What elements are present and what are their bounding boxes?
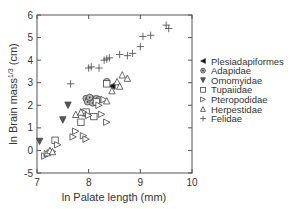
y-tick-label: 6 [27,10,33,21]
x-axis-label: ln Palate length (mm) [62,191,167,203]
plus-icon [200,116,206,122]
y-axis-label: ln Brain mass1/3 (cm) [7,43,19,144]
data-point [119,72,125,78]
data-point [147,32,154,39]
scatter-chart: 78910 6543210-5 PlesiadapiformesAdapidae… [0,0,292,209]
y-tick-label: 1 [27,122,33,133]
square-open-icon [201,87,206,92]
data-point [60,117,66,123]
data-point [95,64,102,71]
legend-label: Felidae [211,113,242,124]
y-tick-label: -5 [24,168,33,179]
right-triangle-open-icon [201,97,206,102]
y-axis-label-main: ln Brain mass [7,78,19,145]
x-tick-label: 9 [138,177,144,188]
data-point [104,119,110,125]
y-tick-label: 0 [27,145,33,156]
y-tick-label: 4 [27,55,33,66]
data-point [65,102,71,108]
data-point [137,43,144,50]
data-point [83,136,89,142]
data-point [91,113,97,119]
left-triangle-filled-icon [201,59,206,64]
x-tick-label: 10 [186,177,198,188]
y-axis-label-sup: 1/3 [7,68,14,78]
legend: PlesiadapiformesAdapidaeOmomyidaeTupaiid… [200,56,284,125]
y-axis-label-unit: (cm) [7,43,19,68]
x-tick-label: 8 [86,177,92,188]
down-triangle-filled-icon [201,78,206,83]
legend-item: Felidae [200,113,242,124]
data-point [70,134,76,140]
y-tick-label: 3 [27,77,33,88]
data-point [104,81,110,87]
data-point [98,111,104,117]
data-point [139,33,146,40]
up-triangle-open-icon [201,107,206,112]
data-points [36,21,172,159]
x-axis-ticks: 78910 [34,15,198,188]
data-point [87,94,93,100]
x-tick-label: 7 [34,177,40,188]
data-point [78,119,84,125]
y-tick-label: 2 [27,100,33,111]
y-tick-label: 5 [27,32,33,43]
data-point [116,51,123,58]
circle-dot-icon [201,68,206,73]
data-point [67,80,74,87]
data-point [73,128,79,134]
